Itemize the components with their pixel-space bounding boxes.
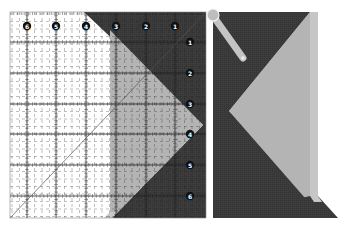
right-panel-unit-view bbox=[207, 9, 338, 218]
ruler-top-label: 4 bbox=[84, 23, 88, 30]
ruler-top-label: 5 bbox=[54, 23, 58, 30]
ruler-top-label: 3 bbox=[114, 23, 118, 30]
rotation-pivot-icon[interactable] bbox=[207, 9, 219, 21]
ruler-top-label: 2 bbox=[144, 23, 148, 30]
ruler-top-label: 1 bbox=[173, 23, 177, 30]
ruler-right-label: 4 bbox=[188, 131, 192, 138]
left-panel-ruler-view: 654321 123456 bbox=[10, 12, 206, 218]
ruler-right-label: 5 bbox=[188, 162, 192, 169]
ruler-right-label: 6 bbox=[188, 193, 192, 200]
ruler-right-label: 3 bbox=[188, 101, 192, 108]
ruler-top-label: 6 bbox=[25, 23, 29, 30]
ruler-right-label: 1 bbox=[188, 39, 192, 46]
diagram-canvas: 654321 123456 bbox=[0, 0, 351, 228]
unit-light-edge-strip bbox=[310, 12, 318, 196]
handle-end-dot bbox=[241, 56, 245, 60]
ruler-right-label: 2 bbox=[188, 70, 192, 77]
